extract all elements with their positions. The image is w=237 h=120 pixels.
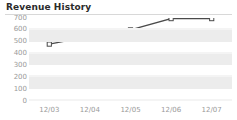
plot-area	[29, 18, 232, 101]
y-axis-tick-label: 100	[1, 86, 27, 93]
line-chart: 7006005004003002001000 12/0312/0412/0512…	[0, 16, 237, 120]
x-axis-tick-label: 12/06	[151, 106, 191, 114]
x-axis-tick-label: 12/05	[111, 106, 151, 114]
data-point-marker[interactable]	[210, 18, 214, 21]
grid-band	[29, 54, 232, 66]
data-point-marker[interactable]	[169, 18, 173, 21]
grid-band	[29, 99, 232, 101]
x-axis-tick-label: 12/07	[192, 106, 232, 114]
data-point-marker[interactable]	[47, 42, 51, 46]
y-axis-tick-label: 400	[1, 50, 27, 57]
y-axis-tick-label: 600	[1, 26, 27, 33]
widget-header: Revenue History	[0, 0, 237, 16]
y-axis-tick-label: 700	[1, 15, 27, 22]
y-axis-tick-label: 200	[1, 74, 27, 81]
x-axis-tick-label: 12/03	[29, 106, 69, 114]
revenue-history-widget: Revenue History 7006005004003002001000 1…	[0, 0, 237, 120]
x-axis: 12/0312/0412/0512/0612/07	[29, 102, 232, 118]
y-axis-tick-label: 500	[1, 38, 27, 45]
grid-band	[29, 30, 232, 42]
page-title: Revenue History	[6, 2, 91, 12]
grid-band	[29, 52, 232, 54]
y-axis: 7006005004003002001000	[0, 16, 27, 120]
grid-band	[29, 28, 232, 30]
title-divider	[5, 14, 232, 15]
grid-band	[29, 77, 232, 89]
x-axis-tick-label: 12/04	[70, 106, 110, 114]
y-axis-tick-label: 0	[1, 98, 27, 105]
grid-band	[29, 75, 232, 77]
y-axis-tick-label: 300	[1, 62, 27, 69]
